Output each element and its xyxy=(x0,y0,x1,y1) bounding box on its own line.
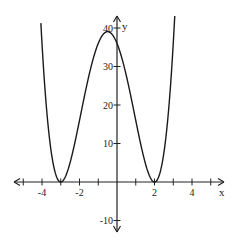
x-tick-label: 2 xyxy=(152,187,157,198)
x-axis-tick-labels: -4-224 xyxy=(38,187,195,198)
y-axis-label: y xyxy=(122,20,128,32)
x-tick-label: 4 xyxy=(190,187,195,198)
function-graph: -4-224 x 40302010-10 y xyxy=(0,0,234,247)
x-axis: -4-224 x xyxy=(14,179,225,199)
x-axis-label: x xyxy=(219,186,225,198)
y-tick-label: 10 xyxy=(103,138,113,149)
y-axis: 40302010-10 y xyxy=(100,16,128,232)
y-tick-label: 20 xyxy=(103,100,113,111)
y-tick-label: 30 xyxy=(103,61,113,72)
y-tick-label: -10 xyxy=(100,215,113,226)
x-tick-label: -2 xyxy=(75,187,83,198)
y-axis-tick-labels: 40302010-10 xyxy=(100,23,113,227)
x-tick-label: -4 xyxy=(38,187,46,198)
